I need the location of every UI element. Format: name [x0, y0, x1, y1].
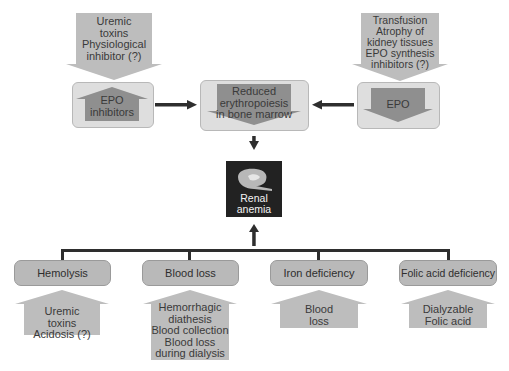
blood-loss-factors: Hemorrhagic diathesis Blood collection B… [143, 302, 237, 360]
hemolysis-factors: Uremic toxins Acidosis (?) [15, 306, 109, 341]
input-factors-left: Uremic toxins Physiological inhibitor (?… [66, 16, 162, 62]
down-arrow-connector [249, 136, 259, 150]
iron-deficiency-factors: Blood loss [271, 304, 367, 327]
cause-hemolysis: Hemolysis [14, 260, 111, 286]
bracket-horizontal-line [61, 249, 450, 252]
renal-anemia-label: Renal anemia [226, 193, 282, 215]
left-arrow-connector [312, 100, 354, 110]
right-arrow-connector [155, 100, 197, 110]
folic-acid-factors: Dialyzable Folic acid [401, 304, 495, 327]
cause-folic-acid-deficiency: Folic acid deficiency [399, 260, 497, 286]
cause-blood-loss: Blood loss [142, 260, 239, 286]
reduced-erythropoiesis-label: Reduced erythropoiesis in bone marrow [207, 86, 301, 121]
epo-inhibitors-label: EPO inhibitors [76, 95, 148, 118]
cause-iron-deficiency: Iron deficiency [270, 260, 368, 286]
input-factors-right: Transfusion Atrophy of kidney tissues EP… [352, 15, 448, 70]
up-arrow-connector [249, 224, 259, 246]
kidney-icon [234, 168, 276, 194]
epo-label: EPO [363, 99, 433, 111]
